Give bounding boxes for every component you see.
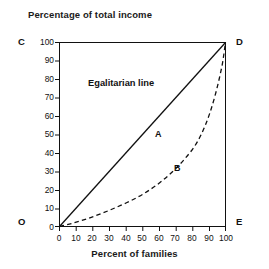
x-tick-marks	[60, 227, 226, 231]
plot-area	[0, 0, 269, 269]
lorenz-curve-figure: Percentage of total income C D O E 100 9…	[0, 0, 269, 269]
region-a-label: A	[155, 129, 162, 139]
y-tick-marks	[55, 43, 59, 227]
egalitarian-line-label: Egalitarian line	[88, 78, 154, 88]
region-b-label: B	[174, 163, 181, 173]
x-axis-title: Percent of families	[0, 248, 269, 259]
egalitarian-line	[60, 43, 226, 227]
